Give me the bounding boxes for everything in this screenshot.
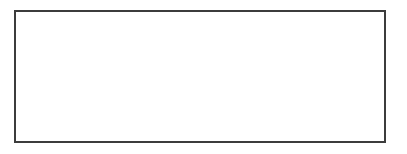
figure-border — [15, 11, 385, 142]
rocket-action-reaction-diagram — [0, 0, 407, 154]
figure-root — [0, 0, 407, 154]
